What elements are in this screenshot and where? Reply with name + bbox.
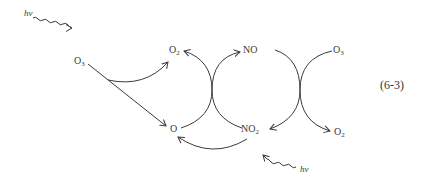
o3-label-right: O3 [333,45,344,55]
arrow-o3-to-o2 [108,62,168,82]
hv-label-bottom: hv [300,164,309,174]
arc-o3-to-o2-right [300,51,332,131]
hv-label-top: hv [24,8,33,18]
o2-label-top: O2 [169,45,180,55]
wavy-photon-arrow-top [33,17,72,28]
wavy-photon-arrow-bottom [263,155,296,168]
o3-label-left: O3 [74,56,85,66]
o-atom-label: O [170,124,177,134]
o2-label-right: O2 [334,127,345,137]
no-label: NO [243,45,257,55]
reaction-cycle-diagram [0,0,427,182]
no2-label: NO2 [241,124,259,134]
arc-o-to-o2 [181,51,212,128]
arrow-no2-to-o [178,137,247,149]
arc-no2-to-no [212,52,242,128]
arc-no-to-no2 [270,50,300,129]
equation-number: (6-3) [380,78,404,93]
